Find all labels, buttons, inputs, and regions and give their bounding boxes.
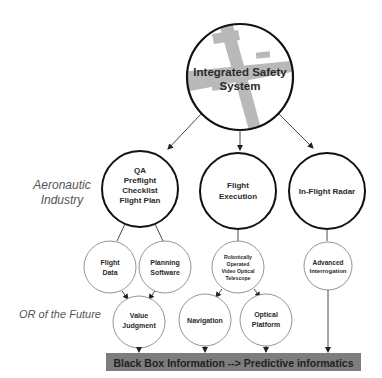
- svg-text:Optical: Optical: [254, 311, 278, 319]
- svg-text:Value: Value: [130, 312, 148, 319]
- node-optical-platform: Optical Platform: [240, 294, 292, 346]
- node-advanced-interrogation: Advanced Interrogation: [304, 242, 352, 290]
- black-box-bar: Black Box Information --> Predictive inf…: [106, 353, 361, 371]
- svg-text:Navigation: Navigation: [187, 317, 223, 325]
- level3-connectors: [139, 346, 266, 352]
- svg-text:Robotically: Robotically: [224, 254, 252, 260]
- aeronautic-industry-label-line2: Industry: [41, 193, 85, 207]
- node-value-judgment: Value Judgment: [113, 296, 165, 348]
- root-connectors: [168, 114, 313, 150]
- svg-text:Software: Software: [150, 269, 180, 276]
- svg-text:Flight: Flight: [100, 259, 120, 267]
- svg-text:Data: Data: [102, 269, 117, 276]
- svg-text:Operated: Operated: [227, 261, 250, 267]
- svg-text:Telescope: Telescope: [226, 275, 251, 281]
- node-flight-execution: Flight Execution: [200, 153, 276, 229]
- svg-text:Execution: Execution: [219, 192, 257, 201]
- svg-text:QA: QA: [134, 166, 146, 175]
- root-title-line2: System: [220, 80, 261, 92]
- node-in-flight-radar: In-Flight Radar: [289, 153, 365, 229]
- svg-text:Preflight: Preflight: [124, 176, 157, 185]
- svg-text:Planning: Planning: [150, 259, 180, 267]
- svg-text:Platform: Platform: [252, 321, 280, 328]
- node-navigation: Navigation: [179, 294, 231, 346]
- svg-text:Interrogation: Interrogation: [310, 268, 347, 274]
- node-flight-data: Flight Data: [84, 241, 136, 293]
- node-qa-preflight: QA Preflight Checklist Flight Plan: [102, 151, 178, 227]
- node-robotic-telescope: Robotically Operated Video Optical Teles…: [212, 241, 264, 293]
- black-box-bar-label: Black Box Information --> Predictive inf…: [113, 357, 353, 369]
- svg-text:Judgment: Judgment: [122, 322, 156, 330]
- svg-text:Advanced: Advanced: [312, 259, 343, 266]
- or-of-the-future-label: OR of the Future: [19, 308, 101, 320]
- svg-text:Video Optical: Video Optical: [221, 268, 255, 274]
- svg-text:In-Flight Radar: In-Flight Radar: [299, 187, 355, 196]
- svg-text:Checklist: Checklist: [122, 186, 158, 195]
- aeronautic-industry-label-line1: Aeronautic: [32, 178, 90, 192]
- node-planning-software: Planning Software: [139, 241, 191, 293]
- root-title-line1: Integrated Safety: [193, 66, 287, 78]
- svg-text:Flight: Flight: [227, 181, 249, 190]
- svg-text:Flight Plan: Flight Plan: [120, 196, 161, 205]
- diagram-canvas: Integrated Safety System Aeronautic Indu…: [0, 0, 382, 378]
